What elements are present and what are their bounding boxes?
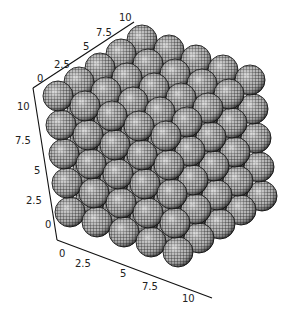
sphere-lattice [43, 25, 277, 267]
top-tick-1: 2.5 [54, 59, 70, 70]
left-tick-4: 0 [45, 219, 51, 230]
left-tick-1: 7.5 [15, 135, 31, 146]
left-tick-2: 5 [34, 165, 40, 176]
bottom-tick-2: 5 [120, 268, 126, 279]
bottom-tick-3: 7.5 [142, 281, 158, 292]
3d-plot: 0 2.5 5 7.5 10 10 7.5 5 2.5 0 0 2.5 5 7.… [0, 0, 296, 317]
left-tick-3: 2.5 [26, 195, 42, 206]
left-tick-0: 10 [17, 101, 30, 112]
bottom-tick-1: 2.5 [75, 258, 91, 269]
top-tick-3: 7.5 [96, 27, 112, 38]
bottom-tick-4: 10 [182, 293, 195, 304]
top-tick-2: 5 [83, 41, 89, 52]
bottom-tick-0: 0 [59, 248, 65, 259]
top-tick-0: 0 [37, 73, 43, 84]
top-tick-4: 10 [119, 12, 132, 23]
